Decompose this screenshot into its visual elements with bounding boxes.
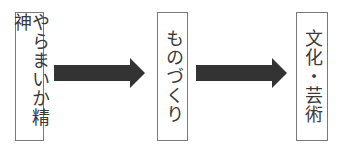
- node-label: 文化・芸術: [303, 29, 321, 124]
- node-culture-arts: 文化・芸術: [296, 12, 328, 141]
- node-yaramaika-spirit: やらまいか精神: [15, 12, 44, 141]
- node-label: やらまいか精神: [12, 13, 48, 140]
- right-arrow-icon: [54, 57, 146, 89]
- right-arrow-icon: [196, 57, 288, 89]
- node-monozukuri: ものづくり: [157, 12, 188, 141]
- node-label: ものづくり: [164, 29, 182, 124]
